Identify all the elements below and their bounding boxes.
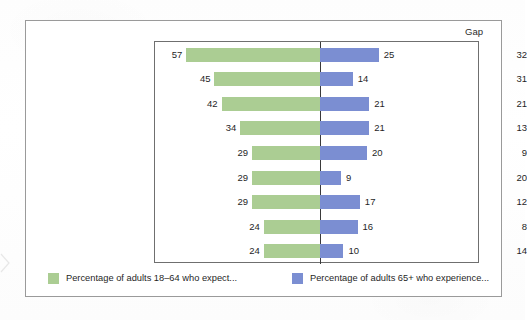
chart-row: Not feeding needed29920 [155, 166, 478, 191]
chart-row: Trouble paying bills24168 [155, 215, 478, 240]
legend-label: Percentage of adults 18–64 who expect... [66, 273, 237, 283]
gap-value: 20 [493, 166, 527, 191]
gap-value: 32 [493, 43, 527, 68]
chart-row: Memory loss572532 [155, 43, 478, 68]
gap-value: 12 [493, 190, 527, 215]
bar-value-experience: 17 [365, 190, 395, 215]
chart-legend: Percentage of adults 18–64 who expect...… [44, 270, 484, 290]
gap-value: 9 [493, 141, 527, 166]
legend-item[interactable]: Percentage of adults 18–64 who expect... [48, 270, 237, 286]
bar-experience [320, 220, 358, 234]
green-swatch [48, 273, 59, 284]
bar-value-expect: 24 [230, 215, 260, 240]
bar-expect [240, 121, 320, 135]
bar-value-experience: 20 [372, 141, 402, 166]
bar-value-expect: 29 [218, 190, 248, 215]
bar-value-expect: 24 [230, 239, 260, 264]
bar-value-expect: 45 [180, 67, 210, 92]
bar-expect [252, 146, 320, 160]
bar-experience [320, 171, 341, 185]
bar-expect [264, 244, 320, 258]
gap-column-header: Gap [443, 26, 483, 37]
bar-expect [264, 220, 320, 234]
bar-expect [252, 195, 320, 209]
gap-value: 13 [493, 116, 527, 141]
bar-value-experience: 14 [358, 67, 388, 92]
bar-expect [252, 171, 320, 185]
bar-value-experience: 25 [384, 43, 414, 68]
chart-row: Loneliness291712 [155, 190, 478, 215]
bar-experience [320, 97, 369, 111]
bar-value-experience: 10 [348, 239, 378, 264]
gap-value: 8 [493, 215, 527, 240]
bar-expect [186, 48, 320, 62]
bar-value-experience: 21 [374, 92, 404, 117]
bar-value-expect: 34 [206, 116, 236, 141]
scan-edge-artifact [0, 252, 14, 274]
bar-experience [320, 48, 379, 62]
legend-item[interactable]: Percentage of adults 65+ who experience.… [292, 270, 489, 286]
chart-frame: Gap Memory loss572532Not able to drive45… [25, 20, 502, 297]
chart-row: Being a burden241014 [155, 239, 478, 264]
bar-experience [320, 72, 353, 86]
chart-region: Gap Memory loss572532Not able to drive45… [26, 21, 503, 298]
bar-experience [320, 195, 360, 209]
bar-expect [214, 72, 320, 86]
bar-value-expect: 29 [218, 141, 248, 166]
bar-experience [320, 121, 369, 135]
chart-row: Feeling sad or depressed29209 [155, 141, 478, 166]
chart-row: Not able to drive451431 [155, 67, 478, 92]
bar-value-expect: 29 [218, 166, 248, 191]
bar-expect [222, 97, 320, 111]
plot-area: Memory loss572532Not able to drive451431… [154, 41, 479, 263]
gap-value: 14 [493, 239, 527, 264]
bar-value-expect: 42 [188, 92, 218, 117]
gap-value: 31 [493, 67, 527, 92]
bar-experience [320, 146, 367, 160]
gap-value: 21 [493, 92, 527, 117]
bar-value-expect: 57 [152, 43, 182, 68]
chart-row: A serious illness422121 [155, 92, 478, 117]
bar-experience [320, 244, 343, 258]
blue-swatch [292, 273, 303, 284]
bar-value-experience: 21 [374, 116, 404, 141]
bar-value-experience: 9 [346, 166, 376, 191]
legend-label: Percentage of adults 65+ who experience.… [310, 273, 489, 283]
bar-value-experience: 16 [363, 215, 393, 240]
chart-row: Not sexually active342113 [155, 116, 478, 141]
